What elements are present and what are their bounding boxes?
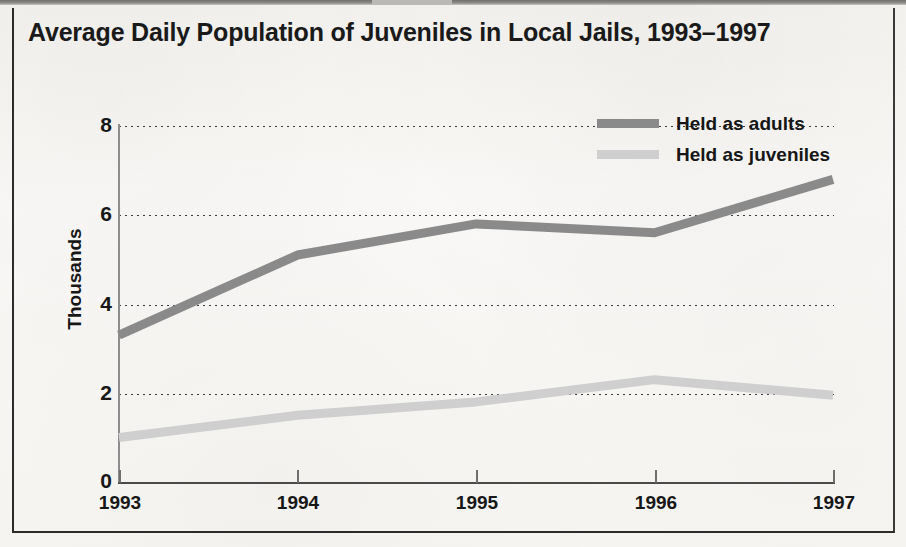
chart-legend: Held as adults Held as juveniles: [597, 108, 887, 170]
legend-swatch-held-as-juveniles: [597, 150, 659, 159]
figure-page: Average Daily Population of Juveniles in…: [0, 0, 906, 547]
series-line-held-as-juveniles: [119, 380, 833, 438]
series-layer: [0, 0, 906, 547]
legend-label-held-as-adults: Held as adults: [676, 113, 805, 135]
legend-item-held-as-adults: Held as adults: [597, 108, 887, 139]
legend-label-held-as-juveniles: Held as juveniles: [676, 144, 830, 166]
legend-swatch-held-as-adults: [597, 119, 659, 128]
series-line-held-as-adults: [119, 179, 833, 335]
legend-item-held-as-juveniles: Held as juveniles: [597, 139, 887, 170]
